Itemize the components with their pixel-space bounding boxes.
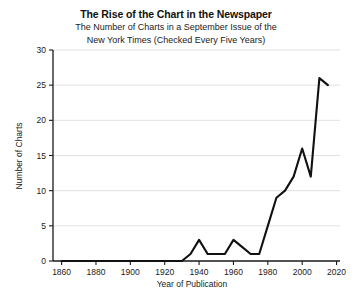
data-line-number-of-charts bbox=[62, 78, 328, 261]
x-tick-label-1980: 1980 bbox=[258, 267, 277, 277]
gridlines bbox=[53, 50, 340, 226]
x-tick-label-1920: 1920 bbox=[155, 267, 174, 277]
y-tick-label-30: 30 bbox=[37, 45, 47, 55]
y-axis-label: Number of Charts bbox=[14, 122, 24, 189]
x-tick-label-1900: 1900 bbox=[121, 267, 140, 277]
y-tick-label-25: 25 bbox=[37, 80, 47, 90]
x-axis-ticks: 186018801900192019401960198020002020 bbox=[52, 261, 346, 277]
y-tick-label-15: 15 bbox=[37, 151, 47, 161]
y-axis-ticks: 051015202530 bbox=[37, 45, 53, 266]
x-tick-label-2000: 2000 bbox=[293, 267, 312, 277]
x-tick-label-1880: 1880 bbox=[87, 267, 106, 277]
y-tick-label-20: 20 bbox=[37, 115, 47, 125]
x-tick-label-1860: 1860 bbox=[52, 267, 71, 277]
plot-area: 051015202530 186018801900192019401960198… bbox=[0, 0, 352, 297]
x-tick-label-1960: 1960 bbox=[224, 267, 243, 277]
x-tick-label-2020: 2020 bbox=[327, 267, 346, 277]
y-tick-label-0: 0 bbox=[41, 256, 46, 266]
x-tick-label-1940: 1940 bbox=[190, 267, 209, 277]
x-axis-label: Year of Publication bbox=[157, 279, 228, 289]
y-tick-label-5: 5 bbox=[41, 221, 46, 231]
y-tick-label-10: 10 bbox=[37, 186, 47, 196]
chart-figure: The Rise of the Chart in the Newspaper T… bbox=[0, 0, 352, 297]
